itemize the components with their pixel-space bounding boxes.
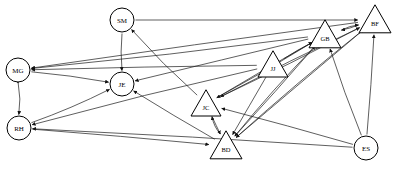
node-gb[interactable]: GB [309, 20, 341, 48]
node-es[interactable]: ES [354, 136, 378, 160]
node-je[interactable]: JE [110, 72, 134, 96]
edge-jj-to-mg [32, 65, 257, 69]
node-sm[interactable]: SM [110, 8, 134, 32]
edge-es-to-bf [367, 35, 374, 135]
triangle-node-shape [359, 5, 391, 33]
network-graph: SMMGJERHESJJGBBFJCBD [0, 0, 400, 177]
diagram-canvas: SMMGJERHESJJGBBFJCBD [0, 0, 400, 177]
circle-node-shape [110, 8, 134, 32]
circle-node-shape [110, 72, 134, 96]
triangle-node-shape [210, 131, 242, 159]
edge-sm-to-je [121, 34, 122, 71]
edge-es-to-rh [32, 129, 352, 147]
triangle-node-shape [309, 20, 341, 48]
edge-mg-to-je [31, 72, 108, 82]
edge-jc-to-bd [212, 117, 220, 134]
edge-bf-to-bd [236, 30, 364, 138]
node-rh[interactable]: RH [7, 116, 31, 140]
triangle-node-shape [258, 51, 288, 77]
node-jj[interactable]: JJ [258, 51, 288, 77]
edge-bf-to-mg [31, 22, 358, 68]
edge-mg-to-rh [18, 84, 20, 115]
edge-jj-to-rh [32, 69, 257, 125]
circle-node-shape [7, 116, 31, 140]
node-bd[interactable]: BD [210, 131, 242, 159]
circle-node-shape [6, 58, 30, 82]
edge-rh-to-je [31, 89, 109, 122]
edge-es-to-jc [222, 108, 353, 144]
edge-es-to-gb [330, 49, 361, 135]
circle-node-shape [354, 136, 378, 160]
node-mg[interactable]: MG [6, 58, 30, 82]
node-bf[interactable]: BF [359, 5, 391, 33]
